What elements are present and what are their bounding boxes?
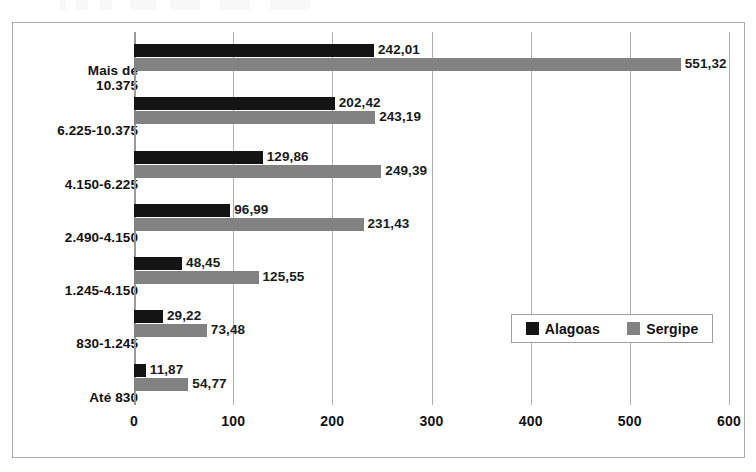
- legend-label: Alagoas: [545, 321, 600, 337]
- bar-value-label: 551,32: [685, 57, 727, 70]
- category-label: Até 830: [89, 390, 138, 405]
- bar-value-label: 243,19: [379, 110, 421, 123]
- bar-value-label: 231,43: [368, 217, 410, 230]
- bar-alagoas: [134, 151, 263, 164]
- bar-alagoas: [134, 310, 163, 323]
- bar-group: 129,86249,39: [134, 151, 729, 179]
- bar-group: 202,42243,19: [134, 97, 729, 125]
- category-label: 2.490-4.150: [65, 230, 138, 245]
- legend-swatch-icon: [526, 322, 539, 335]
- x-tick-label-0: 0: [130, 413, 138, 429]
- bar-value-label: 73,48: [211, 323, 245, 336]
- bar-group: 242,01551,32: [134, 44, 729, 72]
- bar-value-label: 96,99: [234, 203, 268, 216]
- category-label: 6.225-10.375: [57, 123, 138, 138]
- bar-group: 96,99231,43: [134, 204, 729, 232]
- legend-entry-alagoas[interactable]: Alagoas: [526, 321, 600, 337]
- bar-sergipe: [134, 378, 188, 391]
- bar-alagoas: [134, 97, 335, 110]
- bar-sergipe: [134, 218, 364, 231]
- bar-alagoas: [134, 204, 230, 217]
- x-tick-label-200: 200: [320, 413, 344, 429]
- bar-sergipe: [134, 271, 259, 284]
- bar-value-label: 249,39: [385, 164, 427, 177]
- bar-sergipe: [134, 324, 207, 337]
- chart-legend: AlagoasSergipe: [511, 314, 713, 343]
- bar-value-label: 242,01: [378, 43, 420, 56]
- chart-frame: Mais de 10.3756.225-10.3754.150-6.2252.4…: [12, 22, 745, 458]
- x-tick-label-500: 500: [618, 413, 642, 429]
- bar-value-label: 29,22: [167, 309, 201, 322]
- bar-group: 11,8754,77: [134, 364, 729, 392]
- category-axis-labels: Mais de 10.3756.225-10.3754.150-6.2252.4…: [25, 45, 138, 427]
- category-label: 4.150-6.225: [65, 177, 138, 192]
- bar-value-label: 129,86: [267, 150, 309, 163]
- bar-sergipe: [134, 165, 381, 178]
- bar-sergipe: [134, 58, 681, 71]
- bar-value-label: 125,55: [263, 270, 305, 283]
- gridline-600: [729, 32, 730, 405]
- legend-label: Sergipe: [646, 321, 698, 337]
- legend-swatch-icon: [627, 322, 640, 335]
- bar-sergipe: [134, 111, 375, 124]
- bar-alagoas: [134, 44, 374, 57]
- cropped-title-artifact: [60, 0, 390, 10]
- x-tick-label-300: 300: [420, 413, 444, 429]
- bar-value-label: 48,45: [186, 256, 220, 269]
- bar-value-label: 54,77: [192, 377, 226, 390]
- plot-area: 242,01551,32202,42243,19129,86249,3996,9…: [134, 32, 729, 405]
- category-label: Mais de 10.375: [88, 63, 138, 93]
- x-tick-label-600: 600: [717, 413, 741, 429]
- category-label: 830-1.245: [76, 336, 138, 351]
- x-tick-label-100: 100: [221, 413, 245, 429]
- category-label: 1.245-4.150: [65, 283, 138, 298]
- bar-alagoas: [134, 364, 146, 377]
- x-axis-tick-labels: 0100200300400500600: [134, 413, 729, 439]
- bar-group: 48,45125,55: [134, 257, 729, 285]
- bar-value-label: 11,87: [150, 363, 184, 376]
- x-tick-label-400: 400: [519, 413, 543, 429]
- bar-value-label: 202,42: [339, 96, 381, 109]
- bar-alagoas: [134, 257, 182, 270]
- legend-entry-sergipe[interactable]: Sergipe: [627, 321, 698, 337]
